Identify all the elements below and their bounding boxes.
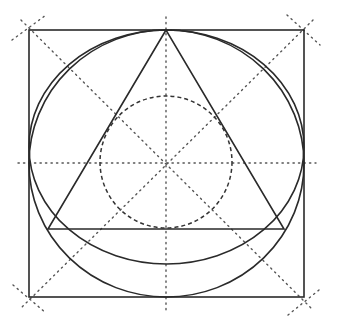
geometry-diagram <box>0 0 337 322</box>
